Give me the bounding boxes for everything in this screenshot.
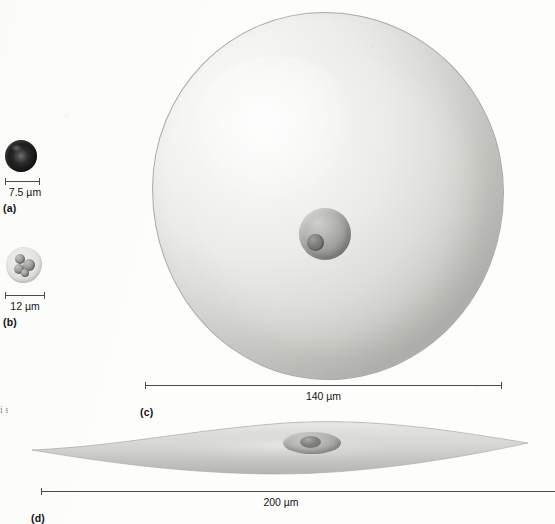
erythrocyte-highlight (11, 144, 22, 152)
scale-label-d: 200 µm (41, 496, 521, 508)
leukocyte-cell-b (6, 247, 42, 283)
large-cell-nucleus (299, 208, 351, 260)
leukocyte-nucleus-lobe (21, 269, 29, 277)
scale-label-c: 140 µm (145, 390, 502, 402)
scale-bar-d-rule (41, 491, 555, 492)
scale-bar-b-tick-right (44, 292, 45, 299)
scale-label-b: 12 µm (2, 300, 48, 312)
flat-cell-nucleolus (300, 436, 321, 448)
scale-bar-c (145, 382, 502, 389)
scale-bar-b-tick-left (5, 292, 6, 299)
scale-bar-a-tick-right (39, 178, 40, 185)
scale-bar-a (5, 178, 40, 185)
flat-spindle-cell-d (30, 418, 530, 478)
large-rounded-cell-c (152, 12, 504, 380)
clipped-caption-fragment: i s (0, 402, 8, 417)
scale-bar-c-rule (145, 385, 502, 386)
panel-label-c: (c) (140, 406, 153, 418)
scale-bar-c-tick-right (501, 382, 502, 389)
scale-bar-b-rule (5, 295, 45, 296)
scale-bar-a-tick-left (5, 178, 6, 185)
panel-label-d: (d) (31, 512, 45, 524)
scale-bar-c-tick-left (145, 382, 146, 389)
scale-bar-d-tick-left (41, 488, 42, 495)
scale-bar-b (5, 292, 45, 299)
flat-cell-body (30, 418, 530, 478)
scale-bar-a-rule (5, 181, 40, 182)
large-cell-cytoplasm (152, 12, 504, 380)
panel-label-a: (a) (3, 202, 16, 214)
figure-canvas: i s 7.5 µm (a) 12 µm (b) 140 µm (c) (0, 0, 555, 524)
scale-bar-d (41, 488, 555, 495)
large-cell-nucleolus (307, 234, 324, 251)
panel-label-b: (b) (3, 316, 17, 328)
erythrocyte-cell-a (5, 140, 37, 172)
scale-label-a: 7.5 µm (2, 186, 48, 198)
flat-cell-nucleus (283, 432, 341, 454)
